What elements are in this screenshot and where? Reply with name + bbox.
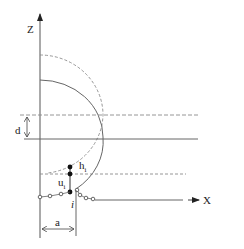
- left-node-chain: [38, 192, 70, 199]
- d-label: d: [15, 124, 21, 136]
- x-axis-label: X: [203, 194, 211, 206]
- dashed-outer-arc: [40, 55, 103, 173]
- right-node-chain: [75, 188, 95, 201]
- middle-dot: [68, 172, 73, 177]
- z-axis-label: Z: [27, 23, 34, 35]
- top-dot: [68, 165, 73, 170]
- h-label: hi: [79, 159, 87, 174]
- a-label: a: [55, 216, 60, 228]
- i-label: i: [71, 198, 74, 210]
- u-label: ui: [58, 176, 66, 191]
- schematic-diagram: Z d hi ui i: [0, 0, 244, 249]
